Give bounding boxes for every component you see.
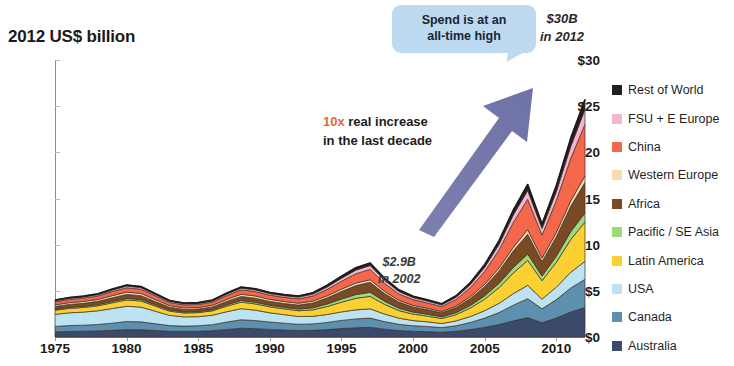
legend-item[interactable]: Western Europe <box>612 161 719 189</box>
legend-item[interactable]: Rest of World <box>612 76 719 104</box>
legend-item[interactable]: Latin America <box>612 246 719 274</box>
chart-legend: Rest of WorldFSU + E EuropeChinaWestern … <box>612 76 719 360</box>
annotation-increase: 10x real increase in the last decade <box>323 113 432 151</box>
legend-swatch-icon <box>612 312 622 322</box>
legend-item[interactable]: FSU + E Europe <box>612 104 719 132</box>
legend-swatch-icon <box>612 256 622 266</box>
legend-item-label: Rest of World <box>628 83 704 97</box>
legend-item-label: Pacific / SE Asia <box>628 225 719 239</box>
callout-line-1: Spend is at an <box>398 13 530 29</box>
legend-swatch-icon <box>612 142 622 152</box>
annotation-peak: $30B in 2012 <box>540 10 584 45</box>
annotation-peak-value: $30B <box>540 10 584 28</box>
up-right-arrow-icon <box>415 82 550 237</box>
annotation-peak-year: in 2012 <box>540 28 584 46</box>
legend-item-label: Africa <box>628 197 660 211</box>
legend-item[interactable]: USA <box>612 275 719 303</box>
legend-swatch-icon <box>612 114 622 124</box>
callout-bubble: Spend is at an all-time high <box>392 5 536 53</box>
legend-item[interactable]: Canada <box>612 303 719 331</box>
legend-swatch-icon <box>612 85 622 95</box>
annotation-trough-value: $2.9B <box>378 254 420 271</box>
annotation-trough-year: in 2002 <box>378 271 420 288</box>
annotation-increase-multiplier: 10x <box>323 114 345 129</box>
callout-line-2: all-time high <box>398 29 530 45</box>
legend-item-label: Western Europe <box>628 168 718 182</box>
legend-item-label: Latin America <box>628 254 704 268</box>
legend-item-label: USA <box>628 282 654 296</box>
legend-item-label: China <box>628 140 661 154</box>
annotation-trough: $2.9B in 2002 <box>378 254 420 288</box>
legend-swatch-icon <box>612 170 622 180</box>
legend-item[interactable]: China <box>612 133 719 161</box>
legend-item-label: Canada <box>628 310 672 324</box>
legend-item[interactable]: Africa <box>612 190 719 218</box>
legend-swatch-icon <box>612 199 622 209</box>
annotation-increase-text: real increase <box>345 114 428 129</box>
legend-swatch-icon <box>612 284 622 294</box>
legend-swatch-icon <box>612 341 622 351</box>
legend-item[interactable]: Pacific / SE Asia <box>612 218 719 246</box>
legend-item-label: FSU + E Europe <box>628 112 719 126</box>
legend-item[interactable]: Australia <box>612 332 719 360</box>
annotation-increase-line-2: in the last decade <box>323 132 432 151</box>
legend-item-label: Australia <box>628 339 677 353</box>
legend-swatch-icon <box>612 227 622 237</box>
